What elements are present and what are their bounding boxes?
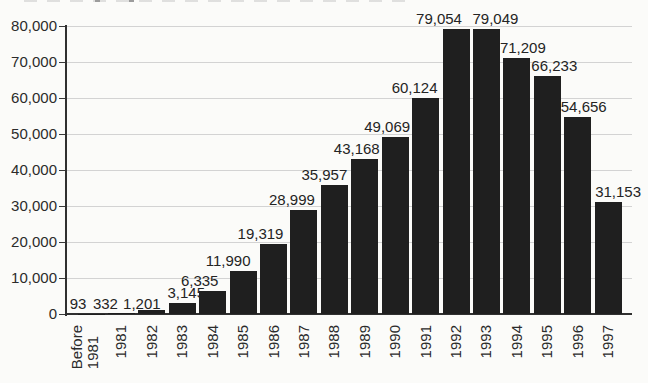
y-axis-tick xyxy=(59,206,65,207)
x-axis-tick-label: Before 1981 xyxy=(69,325,101,369)
bar-value-label: 54,656 xyxy=(561,99,607,115)
bar xyxy=(412,98,439,314)
gridline xyxy=(67,26,632,27)
y-axis-tick xyxy=(59,98,65,99)
y-axis-tick xyxy=(59,26,65,27)
bar-value-label: 28,999 xyxy=(269,192,315,208)
plot-area: 010,00020,00030,00040,00050,00060,00070,… xyxy=(0,0,648,383)
bar xyxy=(199,291,226,314)
bar xyxy=(382,137,409,314)
y-axis-tick-label: 60,000 xyxy=(0,90,57,106)
x-axis-tick-label: 1988 xyxy=(326,325,342,358)
y-axis-tick-label: 0 xyxy=(0,306,57,322)
x-axis-tick-label: 1994 xyxy=(509,325,525,358)
bar-value-label: 93 xyxy=(70,296,87,312)
bar-value-label: 1,201 xyxy=(123,296,161,312)
x-axis-tick-label: 1992 xyxy=(448,325,464,358)
bar xyxy=(443,29,470,314)
bar xyxy=(290,210,317,314)
y-axis-tick xyxy=(59,314,65,315)
bar-chart: 010,00020,00030,00040,00050,00060,00070,… xyxy=(0,0,648,383)
bar xyxy=(108,313,135,314)
bar-value-label: 43,168 xyxy=(334,141,380,157)
bar-value-label: 11,990 xyxy=(206,253,251,269)
x-axis-tick-label: 1997 xyxy=(600,325,616,358)
y-axis-tick-label: 30,000 xyxy=(0,198,57,214)
x-axis-tick-label: 1987 xyxy=(296,325,312,358)
bar xyxy=(230,271,257,314)
x-axis-tick-label: 1991 xyxy=(418,325,434,358)
y-axis-tick xyxy=(59,170,65,171)
y-axis-tick xyxy=(59,278,65,279)
y-axis-tick-label: 80,000 xyxy=(0,18,57,34)
bar xyxy=(351,159,378,314)
bar-value-label: 6,335 xyxy=(181,273,219,289)
x-axis-tick-label: 1986 xyxy=(266,325,282,358)
x-axis-tick-label: 1983 xyxy=(174,325,190,358)
bar xyxy=(503,58,530,314)
y-axis-tick-label: 20,000 xyxy=(0,234,57,250)
y-axis-tick-label: 50,000 xyxy=(0,126,57,142)
bar-value-label: 66,233 xyxy=(531,58,577,74)
bar-value-label: 31,153 xyxy=(595,184,641,200)
y-axis-tick-label: 40,000 xyxy=(0,162,57,178)
bar-value-label: 60,124 xyxy=(392,80,438,96)
bar xyxy=(260,244,287,314)
x-axis-tick-label: 1989 xyxy=(357,325,373,358)
bar-value-label: 71,209 xyxy=(500,40,546,56)
bar xyxy=(321,185,348,314)
y-axis-tick xyxy=(59,134,65,135)
bar-value-label: 79,049 xyxy=(473,11,519,27)
x-axis-tick-label: 1990 xyxy=(387,325,403,358)
y-axis-tick-label: 70,000 xyxy=(0,54,57,70)
x-axis-tick-label: 1985 xyxy=(235,325,251,358)
y-axis-tick xyxy=(59,242,65,243)
x-axis-tick-label: 1982 xyxy=(144,325,160,358)
x-axis-tick-label: 1996 xyxy=(570,325,586,358)
bar-value-label: 332 xyxy=(93,296,118,312)
bar-value-label: 35,957 xyxy=(301,167,347,183)
y-axis-tick xyxy=(59,62,65,63)
x-axis-tick-label: 1984 xyxy=(205,325,221,358)
bar xyxy=(564,117,591,314)
x-axis-tick-label: 1993 xyxy=(478,325,494,358)
bar-value-label: 79,054 xyxy=(416,11,462,27)
x-axis-tick-label: 1995 xyxy=(539,325,555,358)
bar-value-label: 49,069 xyxy=(364,119,410,135)
x-axis-tick-label: 1981 xyxy=(113,325,129,358)
y-axis-tick-label: 10,000 xyxy=(0,270,57,286)
bar xyxy=(473,29,500,314)
bar xyxy=(595,202,622,314)
bar xyxy=(169,303,196,314)
bar-value-label: 19,319 xyxy=(238,226,284,242)
bar xyxy=(534,76,561,314)
